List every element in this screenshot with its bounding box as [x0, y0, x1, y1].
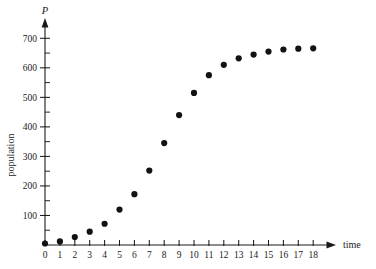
x-axis-tick-label: 9 [177, 250, 182, 260]
y-axis-tick-label: 400 [23, 122, 38, 132]
x-axis-tick-label: 18 [308, 250, 318, 260]
x-axis-tick-label: 7 [147, 250, 152, 260]
y-axis-tick-label: 500 [23, 93, 38, 103]
y-axis-tick-label: 700 [23, 34, 38, 44]
population-time-scatter-figure: 100200300400500600700 012345678910111213… [0, 0, 376, 269]
y-axis-tick-label: 300 [23, 152, 38, 162]
y-axis-tick-labels: 100200300400500600700 [23, 34, 38, 221]
y-axis-tick-label: 200 [23, 181, 38, 191]
y-axis-title-label: population [5, 134, 16, 177]
axes-group [42, 18, 336, 248]
data-point [146, 167, 152, 173]
x-axis-tick-label: 10 [189, 250, 199, 260]
data-point [116, 206, 122, 212]
x-axis-tick-label: 4 [102, 250, 107, 260]
x-axis-tick-label: 1 [58, 250, 63, 260]
x-axis-tick-label: 17 [294, 250, 304, 260]
x-axis-tick-label: 12 [219, 250, 229, 260]
x-axis-arrow-icon [327, 242, 337, 249]
data-point [87, 229, 93, 235]
data-point [161, 140, 167, 146]
data-point [265, 48, 271, 54]
data-point [131, 191, 137, 197]
y-axis-minor-ticks [45, 53, 50, 230]
data-point [310, 45, 316, 51]
x-axis-title-label: time [343, 239, 361, 250]
data-point [236, 55, 242, 61]
x-axis-tick-label: 6 [132, 250, 137, 260]
x-axis-tick-label: 13 [234, 250, 244, 260]
x-axis-tick-label: 14 [249, 250, 259, 260]
data-point-series [42, 45, 316, 246]
y-axis-tick-label: 100 [23, 211, 38, 221]
data-point [221, 62, 227, 68]
x-axis-tick-labels: 0123456789101112131415161718 [43, 250, 319, 260]
x-axis-tick-label: 11 [204, 250, 213, 260]
chart-canvas: 100200300400500600700 012345678910111213… [0, 0, 376, 269]
data-point [206, 72, 212, 78]
x-axis-tick-label: 5 [117, 250, 122, 260]
data-point [176, 112, 182, 118]
x-axis-tick-label: 15 [264, 250, 274, 260]
data-point [280, 46, 286, 52]
x-axis-tick-label: 0 [43, 250, 48, 260]
data-point [57, 238, 63, 244]
data-point [42, 240, 48, 246]
data-point [72, 234, 78, 240]
y-axis-arrow-icon [42, 18, 49, 28]
y-axis-tick-label: 600 [23, 63, 38, 73]
y-axis-symbol-label: P [41, 5, 49, 16]
x-axis-tick-label: 8 [162, 250, 167, 260]
data-point [251, 51, 257, 57]
data-point [191, 90, 197, 96]
data-point [295, 46, 301, 52]
x-axis-tick-label: 16 [279, 250, 289, 260]
x-axis-tick-label: 3 [87, 250, 92, 260]
data-point [102, 221, 108, 227]
x-axis-tick-label: 2 [72, 250, 77, 260]
